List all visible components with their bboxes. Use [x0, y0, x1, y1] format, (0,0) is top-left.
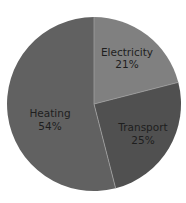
pie-slices [7, 17, 181, 191]
slice-label-electricity-pct: 21% [115, 58, 138, 70]
slice-label-transport-pct: 25% [131, 134, 154, 146]
slice-label-transport-name: Transport [117, 121, 167, 133]
slice-label-electricity-name: Electricity [101, 46, 153, 58]
pie-chart: Electricity 21% Transport 25% Heating 54… [0, 0, 186, 203]
slice-label-heating-pct: 54% [38, 120, 61, 132]
slice-label-heating-name: Heating [29, 107, 70, 119]
